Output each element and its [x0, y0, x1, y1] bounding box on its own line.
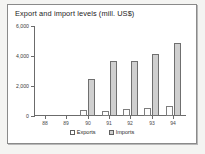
x-axis-tick — [45, 116, 46, 119]
y-axis-label: 0 — [26, 113, 29, 119]
chart-card: Export and import levels (mill. US$) 02,… — [7, 4, 197, 144]
x-axis-label: 92 — [127, 120, 133, 126]
x-axis-tick — [109, 116, 110, 119]
y-axis-label: 2,000 — [16, 83, 29, 89]
x-axis-label: 88 — [42, 120, 48, 126]
legend-swatch-imports-icon — [109, 130, 114, 135]
x-axis-tick — [173, 116, 174, 119]
bar-exports-91 — [102, 111, 109, 116]
bar-imports-93 — [152, 54, 159, 116]
x-axis-tick — [66, 116, 67, 119]
bar-exports-93 — [144, 108, 151, 116]
y-axis-tick — [31, 26, 35, 27]
legend-label-imports: Imports — [116, 129, 135, 135]
x-axis-label: 91 — [106, 120, 112, 126]
legend-label-exports: Exports — [77, 129, 96, 135]
x-axis-label: 89 — [63, 120, 69, 126]
x-axis-label: 93 — [149, 120, 155, 126]
bar-imports-90 — [88, 79, 95, 117]
legend-item-exports: Exports — [70, 129, 96, 135]
x-axis-tick — [88, 116, 89, 119]
bar-exports-94 — [166, 106, 173, 116]
chart-title: Export and import levels (mill. US$) — [15, 9, 134, 18]
plot-area: 02,0004,0006,00088899091929394 — [34, 26, 184, 116]
chart-legend: Exports Imports — [8, 129, 196, 135]
x-axis-tick — [130, 116, 131, 119]
y-axis-tick — [31, 116, 35, 117]
x-axis-label: 94 — [170, 120, 176, 126]
legend-item-imports: Imports — [109, 129, 135, 135]
bar-exports-92 — [123, 109, 130, 116]
legend-swatch-exports-icon — [70, 130, 75, 135]
bar-exports-90 — [80, 110, 87, 116]
y-axis-tick — [31, 86, 35, 87]
y-axis-label: 4,000 — [16, 53, 29, 59]
bar-imports-94 — [174, 43, 181, 117]
bar-imports-92 — [131, 61, 138, 117]
x-axis-label: 90 — [85, 120, 91, 126]
y-axis-label: 6,000 — [16, 23, 29, 29]
chart-screenshot: Export and import levels (mill. US$) 02,… — [0, 0, 205, 154]
bar-imports-91 — [110, 61, 117, 117]
x-axis-tick — [152, 116, 153, 119]
y-axis-tick — [31, 56, 35, 57]
